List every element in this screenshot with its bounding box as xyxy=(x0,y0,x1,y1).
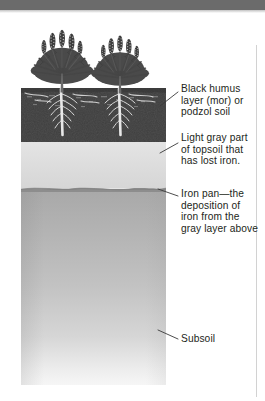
top-header-bar xyxy=(0,0,265,10)
soil-profile-figure: Black humus layer (mor) or podzol soil L… xyxy=(0,0,265,401)
subsoil-edge-shading xyxy=(21,192,166,385)
label-subsoil-layer: Subsoil xyxy=(181,333,259,345)
shrub-left xyxy=(31,30,94,93)
shrub-right xyxy=(91,36,149,94)
soil-profile-block xyxy=(21,88,166,385)
label-iron-pan-layer: Iron pan—the deposition of iron from the… xyxy=(181,188,259,234)
vegetation-group xyxy=(21,18,166,98)
label-humus-layer: Black humus layer (mor) or podzol soil xyxy=(181,83,259,118)
soil-layer-light-gray xyxy=(21,142,166,188)
top-header-bar-shadow xyxy=(0,10,265,13)
label-light-gray-layer: Light gray part of topsoil that has lost… xyxy=(181,132,259,167)
